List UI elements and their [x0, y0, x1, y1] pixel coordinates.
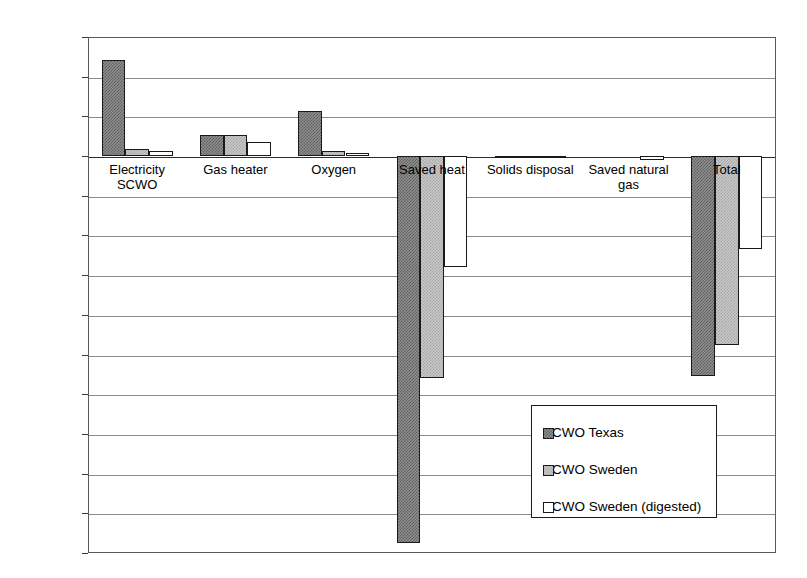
legend-label: SCWO Texas: [543, 426, 624, 440]
y-tick-mark: [82, 315, 88, 316]
category-label: Gas heater: [186, 162, 284, 177]
bar: [298, 111, 322, 156]
bar: [715, 156, 739, 345]
y-tick-mark: [82, 434, 88, 435]
bar: [542, 156, 566, 158]
legend-item: SCWO Sweden: [543, 463, 638, 477]
category-label: Solids disposal: [481, 162, 579, 177]
y-tick-mark: [82, 275, 88, 276]
bar: [346, 153, 370, 157]
y-tick-mark: [82, 156, 88, 157]
bar: [420, 156, 444, 378]
bar: [125, 149, 149, 156]
y-tick-mark: [82, 553, 88, 554]
bar: [691, 156, 715, 376]
legend-item: SCWO Texas: [543, 426, 624, 440]
category-label: Total: [678, 162, 776, 177]
bar: [322, 151, 346, 156]
y-axis: [88, 37, 89, 553]
legend-item: SCWO Sweden (digested): [543, 500, 701, 514]
bar: [200, 135, 224, 156]
y-tick-mark: [82, 235, 88, 236]
gridline: [89, 78, 775, 79]
y-tick-mark: [82, 37, 88, 38]
gridline: [89, 117, 775, 118]
legend-label: SCWO Sweden (digested): [543, 500, 701, 514]
y-tick-mark: [82, 77, 88, 78]
y-tick-mark: [82, 116, 88, 117]
category-label: Saved natural gas: [579, 162, 677, 192]
bar: [149, 151, 173, 156]
bar: [102, 60, 126, 156]
legend: SCWO TexasSCWO SwedenSCWO Sweden (digest…: [531, 405, 717, 518]
category-label: Saved heat: [383, 162, 481, 177]
bar-chart: 3000020000100000-10000-20000-30000-40000…: [0, 0, 807, 578]
y-tick-mark: [82, 355, 88, 356]
gridline: [89, 395, 775, 396]
bar: [397, 156, 421, 543]
y-tick-mark: [82, 196, 88, 197]
y-tick-mark: [82, 474, 88, 475]
bar: [224, 135, 248, 156]
bar: [495, 156, 519, 158]
bar: [247, 142, 271, 156]
y-tick-mark: [82, 394, 88, 395]
bar: [518, 156, 542, 158]
legend-label: SCWO Sweden: [543, 463, 638, 477]
category-label: Electricity SCWO: [88, 162, 186, 192]
legend-swatch-icon: [543, 465, 554, 476]
bar: [640, 156, 664, 160]
legend-swatch-icon: [543, 428, 554, 439]
legend-swatch-icon: [543, 502, 554, 513]
category-label: Oxygen: [285, 162, 383, 177]
y-tick-mark: [82, 513, 88, 514]
